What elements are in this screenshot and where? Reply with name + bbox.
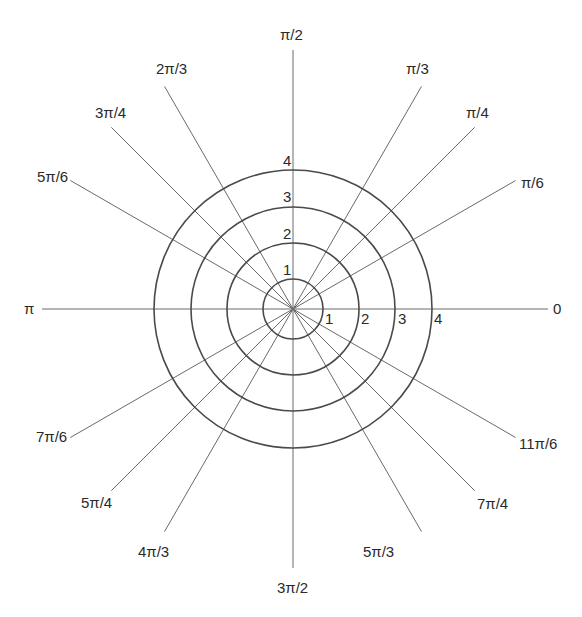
spoke-240deg xyxy=(165,309,294,532)
angle-label-pi: π xyxy=(24,300,34,317)
angle-label-11pi-6: 11π/6 xyxy=(519,435,557,452)
spoke-135deg xyxy=(111,127,293,309)
spokes xyxy=(42,50,548,568)
angle-label-4pi-3: 4π/3 xyxy=(138,543,169,560)
spoke-60deg xyxy=(293,86,422,309)
radius-label-x-3: 3 xyxy=(398,310,406,327)
radius-label-x-2: 2 xyxy=(361,310,369,327)
angle-label-0: 0 xyxy=(553,300,561,317)
spoke-225deg xyxy=(111,309,293,491)
radius-label-x-1: 1 xyxy=(325,310,333,327)
spoke-120deg xyxy=(165,86,294,309)
angle-label-7pi-6: 7π/6 xyxy=(36,428,67,445)
radius-label-axis-4: 4 xyxy=(283,152,291,169)
angle-label-5pi-4: 5π/4 xyxy=(81,494,112,511)
angle-label-5pi-3: 5π/3 xyxy=(363,543,394,560)
spoke-315deg xyxy=(293,309,475,491)
spoke-210deg xyxy=(70,309,293,438)
angle-label-pi-3: π/3 xyxy=(406,60,429,77)
radius-label-x-4: 4 xyxy=(434,310,442,327)
angle-label-5pi-6: 5π/6 xyxy=(37,168,68,185)
radius-label-axis-2: 2 xyxy=(283,225,291,242)
spoke-150deg xyxy=(70,181,293,310)
spoke-330deg xyxy=(293,309,516,438)
spoke-300deg xyxy=(293,309,422,532)
angle-label-pi-6: π/6 xyxy=(521,174,544,191)
angle-label-3pi-4: 3π/4 xyxy=(95,104,126,121)
angle-label-pi-4: π/4 xyxy=(466,104,489,121)
spoke-30deg xyxy=(293,181,516,310)
radius-label-axis-1: 1 xyxy=(283,261,291,278)
angle-label-pi-2: π/2 xyxy=(280,26,303,43)
angle-label-7pi-4: 7π/4 xyxy=(477,495,508,512)
spoke-45deg xyxy=(293,127,475,309)
angle-label-3pi-2: 3π/2 xyxy=(277,579,308,596)
angle-label-2pi-3: 2π/3 xyxy=(156,60,187,77)
radius-label-axis-3: 3 xyxy=(283,188,291,205)
polar-grid: 0 π/6 π/4 π/3 π/2 2π/3 3π/4 5π/6 π 7π/6 … xyxy=(0,0,582,617)
